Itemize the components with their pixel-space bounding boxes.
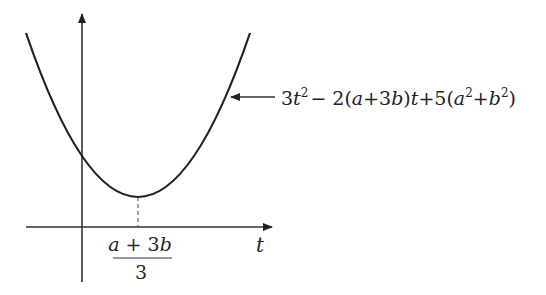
- parabola-graph: 3t2− 2(a+3b)t+5(a2+b2) t a + 3b 3: [0, 0, 546, 295]
- curve-expression: 3t2− 2(a+3b)t+5(a2+b2): [281, 86, 516, 109]
- diagram-canvas: 3t2− 2(a+3b)t+5(a2+b2) t a + 3b 3: [0, 0, 546, 295]
- vertex-label-numerator: a + 3b: [108, 233, 172, 255]
- t-axis-label: t: [256, 233, 265, 257]
- vertex-label-denominator: 3: [135, 261, 147, 283]
- parabola-curve: [26, 33, 250, 197]
